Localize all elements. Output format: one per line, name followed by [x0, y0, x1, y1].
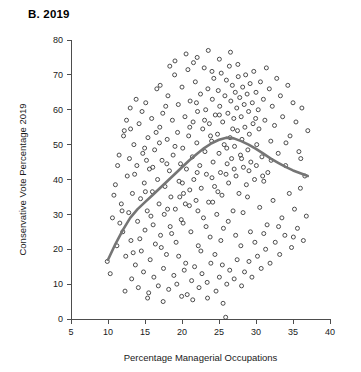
data-point [204, 108, 208, 112]
data-point [160, 158, 164, 162]
y-axis-ticks: 01020304050607080 [53, 35, 71, 324]
data-point [143, 228, 147, 232]
data-point [264, 247, 268, 251]
data-point [208, 134, 212, 138]
data-point [256, 108, 260, 112]
y-tick-label: 30 [53, 210, 63, 220]
data-point [249, 160, 253, 164]
data-point [180, 294, 184, 298]
data-point [241, 165, 245, 169]
data-point [243, 125, 247, 129]
data-point [162, 212, 166, 216]
data-point [156, 284, 160, 288]
data-point [173, 59, 177, 63]
data-point [184, 52, 188, 56]
data-point [277, 225, 281, 229]
data-point [144, 101, 148, 105]
data-point [273, 123, 277, 127]
x-tick-label: 35 [288, 327, 298, 337]
data-point [206, 48, 210, 52]
data-point [112, 193, 116, 197]
data-point [252, 69, 256, 73]
data-point [200, 272, 204, 276]
data-point [287, 191, 291, 195]
data-point [150, 116, 154, 120]
data-point [217, 57, 221, 61]
data-point [211, 200, 215, 204]
data-point [244, 73, 248, 77]
data-point [181, 191, 185, 195]
data-point [263, 118, 267, 122]
y-tick-label: 70 [53, 70, 63, 80]
data-point [119, 202, 123, 206]
data-point [255, 143, 259, 147]
data-point [191, 120, 195, 124]
data-point [262, 232, 266, 236]
data-point [202, 66, 206, 70]
data-point [153, 242, 157, 246]
data-point [227, 64, 231, 68]
data-point [232, 167, 236, 171]
data-point [181, 221, 185, 225]
data-point [257, 127, 261, 131]
data-point [141, 151, 145, 155]
data-point [225, 146, 229, 150]
data-point [177, 254, 181, 258]
data-point [123, 289, 127, 293]
data-point [241, 211, 245, 215]
data-point [130, 191, 134, 195]
data-point [135, 164, 139, 168]
data-point [228, 268, 232, 272]
data-point [253, 240, 257, 244]
data-point [118, 221, 122, 225]
data-point [127, 211, 131, 215]
data-point [199, 92, 203, 96]
data-point [247, 259, 251, 263]
data-point [125, 118, 129, 122]
data-point [278, 252, 282, 256]
data-point [203, 118, 207, 122]
data-point [145, 209, 149, 213]
data-point [268, 261, 272, 265]
data-point [258, 205, 262, 209]
data-point [144, 158, 148, 162]
x-tick-label: 15 [140, 327, 150, 337]
data-point [248, 82, 252, 86]
data-point [235, 106, 239, 110]
data-point [165, 137, 169, 141]
data-point [146, 136, 150, 140]
data-point [253, 178, 257, 182]
x-axis: 510152025303540 Percentage Managerial Oc… [68, 319, 335, 363]
data-point [136, 219, 140, 223]
data-point [122, 129, 126, 133]
data-point [211, 160, 215, 164]
data-point [122, 134, 126, 138]
data-point [151, 223, 155, 227]
data-point [288, 134, 292, 138]
data-point [188, 188, 192, 192]
data-point [146, 296, 150, 300]
data-point [195, 55, 199, 59]
data-point [281, 115, 285, 119]
data-point [250, 101, 254, 105]
y-tick-label: 40 [53, 175, 63, 185]
data-point [280, 216, 284, 220]
data-point [245, 195, 249, 199]
data-point [228, 50, 232, 54]
data-point [142, 270, 146, 274]
data-point [247, 169, 251, 173]
data-point [176, 103, 180, 107]
data-point [201, 127, 205, 131]
data-point [236, 129, 240, 133]
data-point [236, 75, 240, 79]
y-tick-label: 20 [53, 244, 63, 254]
y-tick-label: 10 [53, 279, 63, 289]
data-point [227, 181, 231, 185]
data-point [218, 104, 222, 108]
data-point [278, 94, 282, 98]
data-point [186, 68, 190, 72]
data-point [239, 115, 243, 119]
data-point [142, 181, 146, 185]
data-point [143, 190, 147, 194]
data-point [195, 171, 199, 175]
